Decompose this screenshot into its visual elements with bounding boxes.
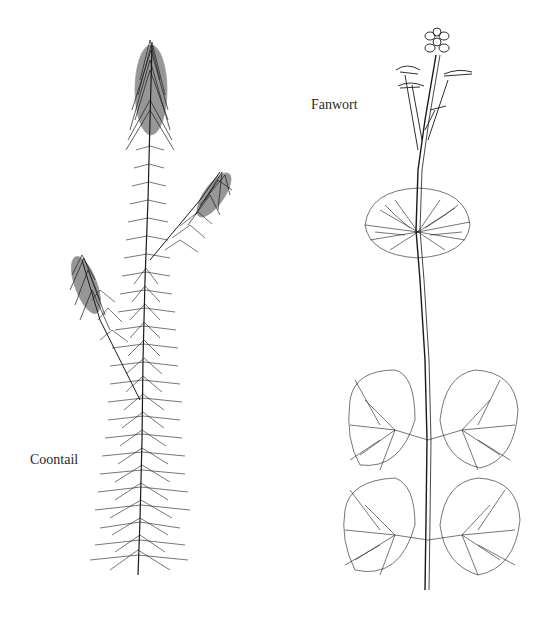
fanwort-middle-leaves <box>349 370 518 470</box>
fanwort-lower-leaves <box>344 478 520 575</box>
coontail-label: Coontail <box>30 452 78 468</box>
fanwort-drawing <box>344 28 520 590</box>
fanwort-label: Fanwort <box>311 97 358 113</box>
botanical-illustration <box>0 0 551 638</box>
coontail-drawing <box>65 40 237 575</box>
fanwort-flower <box>425 28 449 52</box>
